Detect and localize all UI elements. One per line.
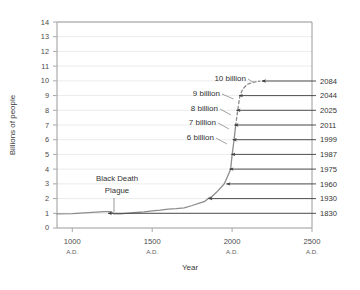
leader-7-billion: [218, 123, 229, 129]
population-curve-projected: [236, 81, 260, 126]
y-tick-6: 6: [45, 135, 49, 144]
year-label-1830: 1830: [320, 209, 337, 218]
x-tick-1500-sub: A.D.: [146, 248, 158, 255]
y-tick-10: 10: [41, 76, 49, 85]
callout-9-billion: 9 billion: [193, 89, 220, 98]
y-tick-5: 5: [45, 150, 49, 159]
y-tick-1: 1: [45, 209, 49, 218]
x-tick-1500: 1500: [144, 237, 161, 246]
black-death-label-line2: Plague: [105, 186, 129, 195]
black-death-label-line1: Black Death: [96, 174, 138, 183]
x-tick-marks: [72, 228, 312, 232]
callout-labels: 10 billion 9 billion 8 billion 7 billion…: [187, 74, 246, 142]
year-label-2011: 2011: [320, 121, 336, 130]
x-tick-2500: 2500: [304, 237, 321, 246]
x-tick-2000-sub: A.D.: [226, 248, 238, 255]
y-tick-marks: [53, 22, 57, 228]
x-tick-1000-sub: A.D.: [66, 248, 78, 255]
year-label-1960: 1960: [320, 180, 337, 189]
year-label-2084: 2084: [320, 77, 337, 86]
year-label-1930: 1930: [320, 194, 337, 203]
y-axis-title: Billions of people: [8, 94, 17, 155]
y-tick-13: 13: [41, 32, 49, 41]
x-tick-labels: 1000 A.D. 1500 A.D. 2000 A.D. 2500 A.D.: [64, 237, 321, 255]
callout-8-billion: 8 billion: [191, 104, 218, 113]
milestone-arrows: [108, 81, 316, 213]
y-tick-12: 12: [41, 47, 49, 56]
chart-canvas: 14 13 12 11 10 9 8 7 6 5 4 3 2 1 0 Billi…: [0, 0, 360, 290]
y-tick-7: 7: [45, 121, 49, 130]
y-tick-14: 14: [41, 18, 49, 27]
x-axis-title: Year: [182, 263, 199, 272]
y-tick-3: 3: [45, 179, 49, 188]
y-tick-9: 9: [45, 91, 49, 100]
leader-9-billion: [222, 94, 234, 99]
callout-10-billion: 10 billion: [214, 74, 246, 83]
population-growth-figure: 14 13 12 11 10 9 8 7 6 5 4 3 2 1 0 Billi…: [0, 0, 360, 290]
gridlines: [57, 22, 312, 213]
y-tick-2: 2: [45, 194, 49, 203]
year-label-2044: 2044: [320, 91, 337, 100]
year-label-2025: 2025: [320, 106, 337, 115]
annotation-black-death: Black Death Plague: [96, 174, 138, 212]
x-tick-1000: 1000: [64, 237, 81, 246]
year-label-1975: 1975: [320, 165, 337, 174]
leader-6-billion: [216, 138, 227, 144]
x-tick-2500-sub: A.D.: [306, 248, 318, 255]
year-label-1987: 1987: [320, 150, 337, 159]
y-tick-8: 8: [45, 106, 49, 115]
callout-6-billion: 6 billion: [187, 133, 214, 142]
x-tick-2000: 2000: [224, 237, 241, 246]
y-tick-11: 11: [41, 62, 49, 71]
y-tick-4: 4: [45, 165, 49, 174]
milestone-year-labels: 2084 2044 2025 2011 1999 1987 1975 1960 …: [320, 77, 337, 218]
callout-7-billion: 7 billion: [189, 118, 216, 127]
y-tick-0: 0: [45, 223, 49, 232]
year-label-1999: 1999: [320, 135, 337, 144]
y-tick-labels: 14 13 12 11 10 9 8 7 6 5 4 3 2 1 0: [41, 18, 49, 233]
